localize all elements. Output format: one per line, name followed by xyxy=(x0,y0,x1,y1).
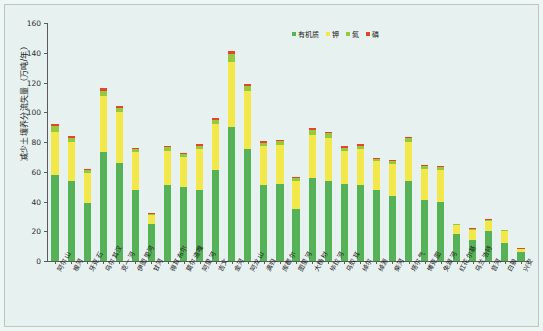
bar-column[interactable] xyxy=(228,51,235,261)
bar-segment-氮 xyxy=(228,54,235,61)
bar-column[interactable] xyxy=(164,146,171,261)
bar-column[interactable] xyxy=(68,136,75,261)
bar-segment-钾 xyxy=(501,231,508,243)
bar-segment-钾 xyxy=(389,164,396,195)
bar-column[interactable] xyxy=(51,124,58,261)
bar-series-container xyxy=(47,23,529,261)
bar-segment-钾 xyxy=(244,91,251,149)
bar-segment-有机质 xyxy=(164,185,171,261)
bar-segment-钾 xyxy=(341,151,348,184)
bar-segment-钾 xyxy=(373,161,380,189)
y-tick-label: 80 xyxy=(10,138,41,147)
bar-segment-有机质 xyxy=(325,181,332,261)
y-tick-label: 0 xyxy=(10,257,41,266)
bar-column[interactable] xyxy=(260,141,267,261)
bar-segment-钾 xyxy=(485,221,492,231)
bar-segment-有机质 xyxy=(501,243,508,261)
bar-segment-钾 xyxy=(325,138,332,181)
bar-segment-钾 xyxy=(469,230,476,240)
bar-column[interactable] xyxy=(84,169,91,261)
bar-segment-有机质 xyxy=(212,170,219,261)
bar-segment-有机质 xyxy=(68,181,75,261)
bar-column[interactable] xyxy=(132,148,139,261)
bar-segment-钾 xyxy=(68,142,75,181)
y-tick-label: 120 xyxy=(10,79,41,88)
bar-segment-钾 xyxy=(276,145,283,184)
bar-segment-有机质 xyxy=(276,184,283,261)
bar-column[interactable] xyxy=(437,166,444,261)
y-tick-label: 60 xyxy=(10,168,41,177)
bar-segment-有机质 xyxy=(341,184,348,261)
bar-segment-有机质 xyxy=(357,185,364,261)
bar-segment-有机质 xyxy=(100,152,107,261)
y-tick-label: 160 xyxy=(10,19,41,28)
bar-column[interactable] xyxy=(341,146,348,261)
bar-segment-钾 xyxy=(357,149,364,185)
y-tick-label: 100 xyxy=(10,108,41,117)
bar-column[interactable] xyxy=(501,230,508,261)
bar-segment-钾 xyxy=(228,62,235,127)
bar-segment-钾 xyxy=(116,112,123,163)
bar-column[interactable] xyxy=(325,132,332,261)
bar-segment-有机质 xyxy=(260,185,267,261)
bar-segment-有机质 xyxy=(405,181,412,261)
bar-segment-钾 xyxy=(405,142,412,181)
bar-segment-钾 xyxy=(453,225,460,234)
y-tick-label: 140 xyxy=(10,49,41,58)
bar-segment-钾 xyxy=(180,157,187,187)
bar-segment-有机质 xyxy=(132,190,139,261)
bar-segment-钾 xyxy=(51,132,58,175)
bar-segment-有机质 xyxy=(244,149,251,261)
bar-segment-有机质 xyxy=(228,127,235,261)
bar-column[interactable] xyxy=(244,84,251,261)
bar-segment-钾 xyxy=(260,146,267,185)
bar-segment-钾 xyxy=(132,152,139,189)
bar-column[interactable] xyxy=(292,177,299,261)
bar-segment-钾 xyxy=(437,170,444,201)
bar-column[interactable] xyxy=(373,158,380,261)
bar-segment-有机质 xyxy=(309,178,316,261)
bar-segment-钾 xyxy=(164,151,171,185)
y-tick-mark xyxy=(44,261,48,262)
y-tick-label: 40 xyxy=(10,198,41,207)
bar-column[interactable] xyxy=(276,140,283,261)
bar-column[interactable] xyxy=(421,165,428,261)
bar-segment-钾 xyxy=(148,215,155,224)
bar-column[interactable] xyxy=(116,106,123,261)
y-tick-label: 20 xyxy=(10,227,41,236)
bar-column[interactable] xyxy=(357,144,364,261)
bar-segment-钾 xyxy=(212,124,219,170)
bar-segment-有机质 xyxy=(373,190,380,261)
bar-segment-钾 xyxy=(84,173,91,203)
bar-segment-钾 xyxy=(421,169,428,200)
bar-segment-钾 xyxy=(309,135,316,178)
bar-column[interactable] xyxy=(212,118,219,261)
bar-column[interactable] xyxy=(405,137,412,261)
bar-column[interactable] xyxy=(100,88,107,261)
bar-segment-钾 xyxy=(100,96,107,153)
bar-segment-钾 xyxy=(292,181,299,209)
chart-figure: 减少土壤养分流失量（万吨/年） 020406080100120140160 有机… xyxy=(0,0,543,331)
bar-segment-有机质 xyxy=(84,203,91,261)
bar-segment-钾 xyxy=(196,149,203,189)
bar-segment-有机质 xyxy=(389,196,396,261)
bar-column[interactable] xyxy=(309,128,316,261)
plot-area: 减少土壤养分流失量（万吨/年） 020406080100120140160 有机… xyxy=(0,0,543,331)
bar-segment-有机质 xyxy=(51,175,58,261)
bar-column[interactable] xyxy=(389,160,396,261)
